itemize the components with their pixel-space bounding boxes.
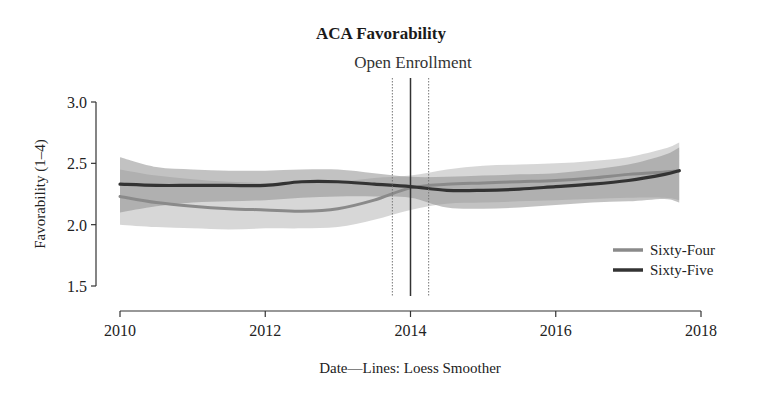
plot-area: 1.52.02.53.020102012201420162018Date—Lin… (0, 0, 762, 403)
axes: 1.52.02.53.020102012201420162018Date—Lin… (32, 94, 717, 376)
y-tick-label: 1.5 (67, 278, 87, 295)
x-tick-label: 2018 (685, 322, 717, 339)
legend-label-sixty-four: Sixty-Four (650, 242, 715, 258)
y-tick-label: 2.5 (67, 155, 87, 172)
x-tick-label: 2012 (249, 322, 281, 339)
y-tick-label: 3.0 (67, 94, 87, 111)
y-tick-label: 2.0 (67, 217, 87, 234)
legend: Sixty-FourSixty-Five (613, 242, 715, 278)
legend-label-sixty-five: Sixty-Five (650, 262, 714, 278)
y-axis-label: Favorability (1–4) (32, 139, 49, 249)
x-axis-label: Date—Lines: Loess Smoother (319, 360, 501, 376)
x-tick-label: 2014 (395, 322, 427, 339)
x-tick-label: 2010 (104, 322, 136, 339)
x-tick-label: 2016 (540, 322, 572, 339)
chart: ACA Favorability Open Enrollment 1.52.02… (0, 0, 762, 403)
